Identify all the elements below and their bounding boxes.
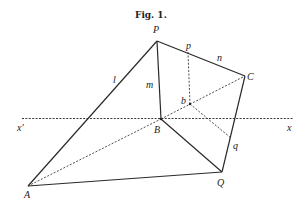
point-b <box>189 103 191 105</box>
dashed-pb <box>188 52 190 104</box>
figure-diagram: Fig. 1. P p n C l m b B x' x q A Q <box>0 0 305 207</box>
label-l: l <box>113 74 116 85</box>
label-q: q <box>233 140 238 151</box>
label-p: p <box>185 40 191 51</box>
edge-PC <box>157 41 245 76</box>
figure-title: Fig. 1. <box>135 10 167 20</box>
edge-PA <box>28 41 157 186</box>
label-C: C <box>247 71 254 82</box>
label-m: m <box>146 79 153 90</box>
dashed-AB <box>28 119 161 186</box>
label-n: n <box>217 52 222 63</box>
label-B: B <box>154 124 160 135</box>
dashed-BC <box>161 76 245 119</box>
label-Q: Q <box>217 177 225 188</box>
point-B <box>160 118 163 121</box>
edge-PB <box>157 41 161 119</box>
edge-CQ <box>222 76 245 172</box>
label-b: b <box>181 95 186 106</box>
label-A: A <box>23 189 31 200</box>
edge-BQ <box>161 119 222 172</box>
label-x-prime: x' <box>16 122 24 133</box>
label-P: P <box>152 24 159 35</box>
edge-AQ <box>28 172 222 186</box>
dashed-bq <box>190 104 231 138</box>
label-x: x <box>286 122 292 133</box>
